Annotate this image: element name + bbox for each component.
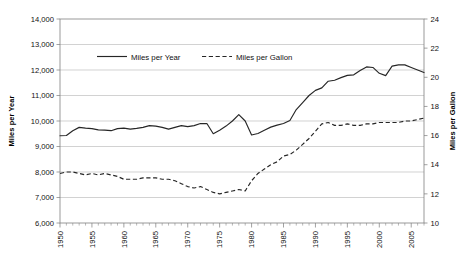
y-axis-ticks — [57, 19, 61, 223]
y2-tick-label: 12 — [431, 190, 439, 199]
y2-tick-label: 20 — [431, 73, 439, 82]
y-tick-label: 12,000 — [31, 66, 54, 75]
x-tick-label: 1980 — [247, 231, 256, 248]
y-axis-title: Miles per Year — [7, 95, 16, 146]
y-tick-label: 14,000 — [31, 15, 54, 24]
x-tick-label: 1965 — [151, 231, 160, 248]
y2-tick-label: 16 — [431, 131, 439, 140]
y2-tick-label: 22 — [431, 44, 439, 53]
y-tick-label: 13,000 — [31, 40, 54, 49]
y2-axis-tick-labels: 1012141618202224 — [431, 15, 439, 228]
x-tick-label: 2005 — [407, 231, 416, 248]
x-tick-label: 1955 — [88, 231, 97, 248]
y-tick-label: 7,000 — [35, 193, 54, 202]
y2-axis-title: Miles per Gallon — [448, 91, 457, 150]
x-tick-label: 1960 — [120, 231, 129, 248]
x-tick-label: 1975 — [215, 231, 224, 248]
y-axis-tick-labels: 6,0007,0008,0009,00010,00011,00012,00013… — [31, 15, 54, 228]
x-tick-label: 1950 — [56, 231, 65, 248]
legend-label-miles-per-year: Miles per Year — [131, 53, 181, 62]
y2-tick-label: 24 — [431, 15, 439, 24]
y-tick-label: 11,000 — [31, 91, 54, 100]
y-tick-label: 9,000 — [35, 142, 54, 151]
legend-label-miles-per-gallon: Miles per Gallon — [236, 53, 292, 62]
line-chart: 6,0007,0008,0009,00010,00011,00012,00013… — [0, 0, 463, 269]
y-tick-label: 8,000 — [35, 168, 54, 177]
x-tick-label: 1985 — [279, 231, 288, 248]
y2-axis-ticks — [424, 19, 428, 223]
y2-tick-label: 14 — [431, 160, 439, 169]
x-axis-tick-labels: 1950195519601965197019751980198519901995… — [56, 231, 416, 248]
x-axis-ticks — [60, 223, 424, 228]
x-tick-label: 2000 — [375, 231, 384, 248]
y-tick-label: 10,000 — [31, 117, 54, 126]
y2-tick-label: 18 — [431, 102, 439, 111]
x-tick-label: 1970 — [183, 231, 192, 248]
y-tick-label: 6,000 — [35, 219, 54, 228]
x-tick-label: 1990 — [311, 231, 320, 248]
x-tick-label: 1995 — [343, 231, 352, 248]
chart-container: 6,0007,0008,0009,00010,00011,00012,00013… — [0, 0, 463, 269]
y2-tick-label: 10 — [431, 219, 439, 228]
